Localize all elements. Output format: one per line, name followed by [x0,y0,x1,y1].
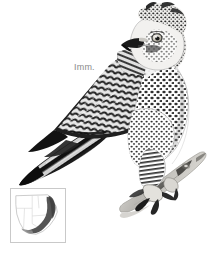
range-map-inset [10,188,66,243]
field-guide-plate: Imm. [0,0,220,255]
age-label: Imm. [74,62,95,73]
